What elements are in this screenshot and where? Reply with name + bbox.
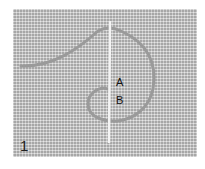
- point-label-a: A: [116, 76, 123, 88]
- thread: [21, 28, 154, 121]
- needle: [109, 21, 110, 143]
- step-number: 1: [20, 137, 28, 154]
- thread-and-needle-illustration: [13, 9, 197, 157]
- point-label-b: B: [116, 94, 123, 106]
- embroidery-photo: A B 1: [13, 9, 197, 157]
